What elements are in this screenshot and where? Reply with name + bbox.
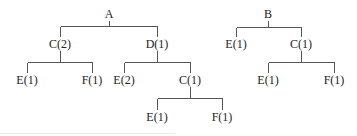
tree-diagram: A C(2) D(1) E(1) F(1) E(2) C(1) E(1) F(1… — [0, 0, 357, 136]
node-a-d-c-f: F(1) — [211, 110, 234, 124]
node-a-c: C(2) — [48, 37, 72, 51]
node-a-c-f: F(1) — [81, 73, 104, 87]
tree-a-edges — [28, 20, 223, 110]
node-b-e: E(1) — [224, 37, 247, 51]
node-a-d: D(1) — [145, 37, 170, 51]
node-a-d-c-e: E(1) — [145, 110, 168, 124]
node-b-c-e: E(1) — [256, 73, 279, 87]
node-a-d-e: E(2) — [112, 73, 135, 87]
tree-edges — [0, 0, 357, 136]
node-a-c-e: E(1) — [15, 73, 38, 87]
tree-b-edges — [237, 20, 335, 73]
node-a-d-c: C(1) — [178, 73, 202, 87]
node-a-root: A — [104, 7, 115, 21]
node-b-c-f: F(1) — [323, 73, 346, 87]
node-b-c: C(1) — [289, 37, 313, 51]
bottom-divider — [0, 133, 175, 134]
node-b-root: B — [263, 7, 273, 21]
